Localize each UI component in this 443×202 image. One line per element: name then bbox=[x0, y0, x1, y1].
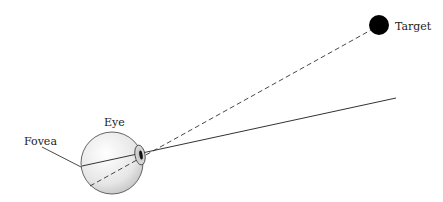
visual-axis-line bbox=[82, 98, 396, 166]
eyeball bbox=[81, 132, 143, 194]
diagram-canvas: Target Eye Fovea bbox=[0, 0, 443, 202]
fovea-label: Fovea bbox=[24, 135, 57, 148]
target-label: Target bbox=[395, 20, 432, 33]
target-ray-line bbox=[90, 30, 371, 186]
eye-diagram: Target Eye Fovea bbox=[0, 0, 443, 202]
fovea-pointer-line bbox=[42, 147, 83, 168]
target-dot bbox=[369, 15, 389, 35]
eye-label: Eye bbox=[104, 116, 125, 129]
